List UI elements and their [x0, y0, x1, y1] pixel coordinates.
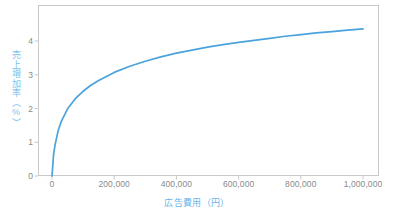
x-tick-label-1: 200,000 — [98, 179, 129, 189]
x-tick-label-2: 400,000 — [161, 179, 192, 189]
x-tick-label-5: 1,000,000 — [344, 179, 383, 189]
chart-container: 0200,000400,000600,000800,0001,000,000 0… — [0, 0, 394, 215]
data-series-line — [52, 29, 363, 176]
y-tick-label-slot-4: 4 — [20, 41, 33, 51]
y-tick-label-slot-3: 3 — [20, 75, 33, 85]
x-tick-label-3: 600,000 — [223, 179, 254, 189]
x-tick-label-4: 800,000 — [285, 179, 316, 189]
y-tick-label-4: 4 — [20, 36, 33, 46]
y-tick-label-1: 1 — [20, 137, 33, 147]
x-tick-label-0: 0 — [50, 179, 55, 189]
plot-svg — [0, 0, 394, 215]
y-axis-title: 売上増加率（%） — [7, 50, 21, 127]
y-tick-label-3: 3 — [20, 70, 33, 80]
y-tick-label-slot-2: 2 — [20, 109, 33, 119]
x-axis-title: 広告費用（円） — [0, 196, 394, 209]
y-tick-label-0: 0 — [20, 171, 33, 181]
y-tick-label-slot-1: 1 — [20, 142, 33, 152]
y-tick-label-2: 2 — [20, 104, 33, 114]
y-tick-label-slot-0: 0 — [20, 176, 33, 186]
y-tick-marks — [35, 41, 39, 176]
